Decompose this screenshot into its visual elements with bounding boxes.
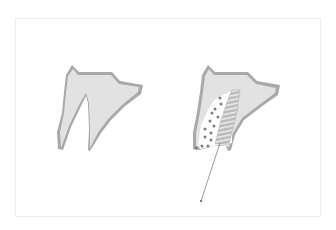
diagram-canvas bbox=[0, 0, 336, 230]
leader-line-endpoint bbox=[200, 200, 202, 202]
left-bone-fill bbox=[60, 69, 139, 148]
right-bone-section bbox=[193, 65, 280, 202]
leader-line bbox=[201, 143, 220, 201]
left-bone-section bbox=[57, 65, 143, 151]
